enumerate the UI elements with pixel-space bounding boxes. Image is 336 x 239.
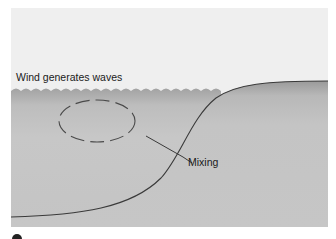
wind-label: Wind generates waves bbox=[16, 71, 122, 83]
corner-marker-icon bbox=[12, 234, 22, 239]
mixing-diagram bbox=[11, 8, 328, 227]
diagram-panel: Wind generates waves Mixing bbox=[11, 8, 328, 227]
mixing-label: Mixing bbox=[188, 156, 218, 168]
